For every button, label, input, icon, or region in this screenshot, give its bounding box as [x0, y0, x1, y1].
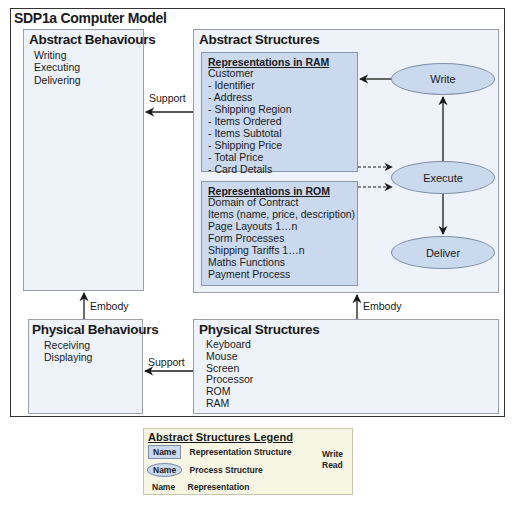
abstract-behaviours-heading: Abstract Behaviours [29, 32, 143, 47]
list-item: ROM [206, 386, 498, 398]
list-item: Mouse [206, 351, 498, 363]
legend: Abstract Structures Legend Name Represen… [143, 428, 353, 495]
legend-read-label: Read [322, 460, 343, 470]
list-item: RAM [206, 398, 498, 410]
list-item: Maths Functions [208, 257, 357, 269]
support-label-top: Support [149, 92, 186, 104]
ram-representations-box: Representations in RAM Customer - Identi… [201, 52, 358, 172]
physical-structures-heading: Physical Structures [199, 322, 498, 337]
embody-label-left: Embody [90, 300, 129, 312]
physical-behaviours-box: Physical Behaviours Receiving Displaying [28, 319, 143, 414]
list-item: Executing [34, 61, 143, 73]
list-item: Writing [34, 49, 143, 61]
physical-structures-list: Keyboard Mouse Screen Processor ROM RAM [206, 339, 498, 410]
legend-representation-label: Representation [188, 482, 250, 492]
rom-representations-box: Representations in ROM Domain of Contrac… [201, 181, 358, 286]
abstract-behaviours-list: Writing Executing Delivering [34, 49, 143, 86]
deliver-process: Deliver [391, 236, 495, 269]
list-item: - Items Subtotal [208, 128, 357, 140]
list-item: - Card Details [208, 164, 357, 176]
list-item: - Total Price [208, 152, 357, 164]
list-item: Delivering [34, 74, 143, 86]
legend-heading: Abstract Structures Legend [148, 431, 352, 443]
list-item: Receiving [44, 339, 142, 351]
list-item: Keyboard [206, 339, 498, 351]
execute-process: Execute [391, 161, 495, 194]
legend-plain-sample: Name [152, 482, 175, 492]
legend-oval-sample: Name [147, 463, 182, 477]
legend-rect-sample: Name [148, 445, 181, 459]
legend-representation-structure-row: Name Representation Structure [148, 447, 292, 457]
list-item: Payment Process [208, 269, 357, 281]
support-label-bottom: Support [148, 356, 185, 368]
legend-write-label: Write [322, 449, 343, 459]
legend-process-structure-row: Name Process Structure [147, 465, 263, 475]
ram-list: Customer - Identifier - Address - Shippi… [208, 68, 357, 175]
embody-label-right: Embody [363, 300, 402, 312]
legend-representation-structure-label: Representation Structure [190, 447, 292, 457]
list-item: Displaying [44, 351, 142, 363]
list-item: - Shipping Price [208, 140, 357, 152]
physical-structures-box: Physical Structures Keyboard Mouse Scree… [193, 319, 499, 414]
physical-behaviours-list: Receiving Displaying [44, 339, 142, 364]
diagram-title: SDP1a Computer Model [14, 10, 167, 26]
legend-process-structure-label: Process Structure [190, 465, 263, 475]
abstract-behaviours-box: Abstract Behaviours Writing Executing De… [23, 29, 144, 291]
list-item: Processor [206, 374, 498, 386]
physical-behaviours-heading: Physical Behaviours [32, 322, 142, 337]
write-process: Write [391, 63, 495, 95]
rom-list: Domain of Contract Items (name, price, d… [208, 197, 357, 280]
abstract-structures-heading: Abstract Structures [199, 32, 498, 47]
legend-representation-row: Name Representation [152, 482, 249, 492]
